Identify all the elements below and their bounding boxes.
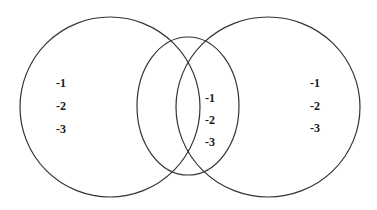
- right-region-item-3: -3: [310, 122, 320, 134]
- venn-diagram: -1 -2 -3 -1 -2 -3 -1 -2 -3: [0, 0, 377, 210]
- right-region-item-2: -2: [310, 100, 320, 112]
- left-region-item-1: -1: [56, 77, 66, 89]
- left-region-item-3: -3: [56, 123, 66, 135]
- middle-region-item-2: -2: [205, 114, 215, 126]
- middle-region-item-1: -1: [205, 92, 215, 104]
- middle-ellipse: [137, 37, 239, 175]
- left-region-item-2: -2: [56, 100, 66, 112]
- right-region-item-1: -1: [310, 77, 320, 89]
- left-ellipse: [20, 17, 200, 197]
- middle-region-item-3: -3: [205, 136, 215, 148]
- right-ellipse: [176, 17, 360, 197]
